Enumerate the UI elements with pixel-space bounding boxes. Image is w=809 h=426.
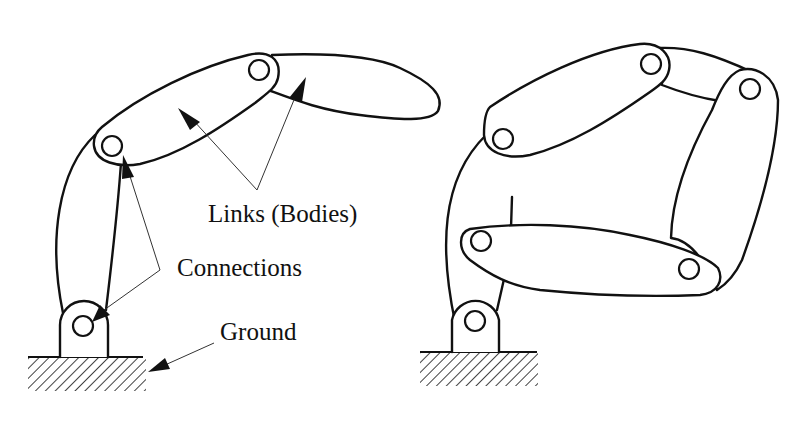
leader-ground <box>165 343 214 365</box>
mechanism-figure: Links (Bodies) Connections Ground <box>0 0 809 426</box>
leader-connections-b <box>104 270 160 310</box>
label-links-bodies: Links (Bodies) <box>208 201 357 226</box>
leader-links-b <box>257 95 296 190</box>
pin-ground-right <box>465 311 485 331</box>
pin-ground-left <box>73 316 93 336</box>
leader-connections-a <box>128 170 160 270</box>
ground-hatch-left <box>28 358 146 391</box>
label-ground: Ground <box>220 319 296 344</box>
diagram-canvas <box>0 0 809 426</box>
link-tail-left <box>268 54 440 119</box>
ground-hatch-right <box>420 353 538 386</box>
pin-joint-right-4 <box>471 231 491 251</box>
link-left-right-inner-top <box>511 197 512 228</box>
link-lower-left <box>56 135 95 313</box>
pin-joint-left-2 <box>249 60 269 80</box>
pin-joint-left-1 <box>102 136 122 156</box>
right-mechanism <box>420 44 778 386</box>
leader-links-a <box>193 120 257 190</box>
link-lower-left-edge <box>106 163 121 310</box>
arrowhead-ground <box>148 358 170 372</box>
pin-joint-right-2 <box>641 54 661 74</box>
label-connections: Connections <box>177 255 302 280</box>
pin-joint-right-5 <box>679 259 699 279</box>
pin-joint-right-3 <box>740 79 760 99</box>
pin-joint-right-1 <box>493 129 513 149</box>
